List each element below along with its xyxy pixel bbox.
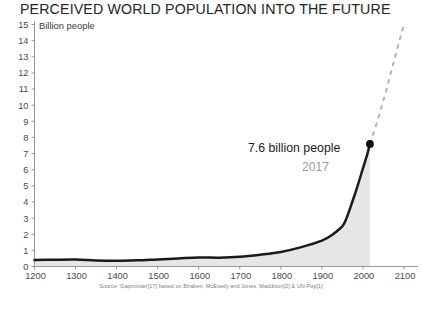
source-caption: Source: Gapminder[17] based on Biraben, … <box>0 283 422 289</box>
svg-text:12: 12 <box>18 68 28 78</box>
svg-text:4: 4 <box>23 197 28 207</box>
plot-area: 0123456789101112131415 12001300140015001… <box>0 0 422 309</box>
projection-line <box>370 25 404 144</box>
svg-text:1200: 1200 <box>25 271 46 281</box>
svg-text:1300: 1300 <box>66 271 87 281</box>
svg-text:3: 3 <box>23 214 28 224</box>
svg-text:6: 6 <box>23 165 28 175</box>
svg-text:1500: 1500 <box>148 271 169 281</box>
svg-text:1700: 1700 <box>230 271 251 281</box>
svg-text:2000: 2000 <box>354 271 375 281</box>
x-axis-ticks: 1200130014001500160017001800190020002100 <box>25 267 415 282</box>
svg-text:1: 1 <box>23 246 28 256</box>
svg-text:13: 13 <box>18 52 28 62</box>
svg-text:10: 10 <box>18 101 28 111</box>
svg-text:8: 8 <box>23 133 28 143</box>
annotation-year-label: 2017 <box>302 160 329 174</box>
svg-text:14: 14 <box>18 36 28 46</box>
svg-text:5: 5 <box>23 181 28 191</box>
svg-text:15: 15 <box>18 20 28 30</box>
svg-text:1400: 1400 <box>107 271 128 281</box>
y-axis-ticks: 0123456789101112131415 <box>18 20 34 272</box>
svg-text:1900: 1900 <box>313 271 334 281</box>
svg-text:11: 11 <box>19 84 29 94</box>
svg-text:9: 9 <box>23 117 28 127</box>
svg-text:1600: 1600 <box>189 271 210 281</box>
svg-text:2: 2 <box>23 230 28 240</box>
svg-text:2100: 2100 <box>395 271 416 281</box>
population-chart: PERCEIVED WORLD POPULATION INTO THE FUTU… <box>0 0 422 309</box>
svg-text:1800: 1800 <box>271 271 292 281</box>
data-point-marker <box>366 140 374 148</box>
svg-text:7: 7 <box>23 149 28 159</box>
annotation-value-label: 7.6 billion people <box>248 141 340 155</box>
